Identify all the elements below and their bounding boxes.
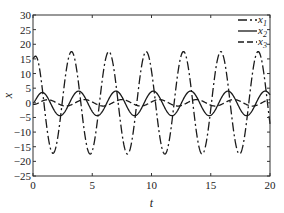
y-tick-label: 5 [26, 82, 32, 94]
series-x1-line [33, 52, 270, 154]
x-axis-label: t [150, 196, 154, 210]
y-tick-label: 25 [20, 24, 32, 36]
x-tick-label: 10 [146, 179, 158, 191]
x-tick-label: 20 [265, 179, 277, 191]
line-chart: 302520151050−5−10−15−20−25 05101520 t x … [0, 0, 284, 213]
y-tick-label: 15 [20, 53, 32, 65]
series-x2-line [33, 91, 270, 116]
y-tick-label: 0 [26, 97, 32, 109]
curves [33, 52, 270, 154]
y-axis-ticks: 302520151050−5−10−15−20−25 [14, 9, 270, 182]
y-axis-label: x [1, 92, 15, 99]
x-tick-label: 15 [205, 179, 217, 191]
y-tick-label: 20 [20, 38, 32, 50]
y-tick-label: −5 [19, 111, 31, 123]
y-tick-label: −25 [14, 170, 32, 182]
y-tick-label: −20 [14, 155, 32, 167]
x-tick-label: 5 [90, 179, 96, 191]
y-tick-label: −15 [14, 141, 32, 153]
axes-frame [33, 15, 270, 176]
series-x3-line [33, 100, 270, 106]
y-tick-label: −10 [14, 126, 32, 138]
legend: x1x2x3 [238, 13, 267, 50]
y-tick-label: 10 [20, 68, 32, 80]
x-tick-label: 0 [30, 179, 36, 191]
y-tick-label: 30 [20, 9, 32, 21]
